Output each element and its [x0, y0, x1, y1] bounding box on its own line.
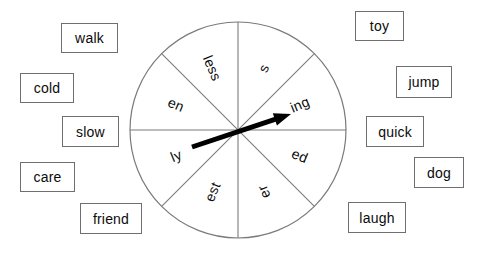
word-card-jump[interactable]: jump: [396, 66, 452, 98]
word-card-label: slow: [76, 125, 105, 139]
word-card-label: toy: [370, 19, 389, 33]
word-card-label: dog: [427, 166, 451, 180]
word-card-label: jump: [408, 75, 439, 89]
word-card-label: cold: [34, 81, 60, 95]
word-card-label: quick: [378, 125, 412, 139]
word-card-quick[interactable]: quick: [366, 116, 424, 147]
word-card-toy[interactable]: toy: [355, 11, 404, 41]
word-card-label: friend: [93, 212, 129, 226]
word-card-care[interactable]: care: [20, 162, 75, 192]
word-card-laugh[interactable]: laugh: [348, 202, 406, 233]
worksheet-canvas: singederestlyenless walkcoldslowcarefrie…: [0, 0, 481, 257]
word-card-friend[interactable]: friend: [80, 203, 142, 234]
word-card-label: laugh: [359, 211, 394, 225]
word-card-label: walk: [75, 31, 104, 45]
word-card-walk[interactable]: walk: [61, 23, 118, 53]
word-card-cold[interactable]: cold: [20, 73, 74, 103]
word-card-label: care: [33, 170, 61, 184]
word-card-dog[interactable]: dog: [414, 157, 464, 188]
word-card-slow[interactable]: slow: [62, 116, 119, 147]
